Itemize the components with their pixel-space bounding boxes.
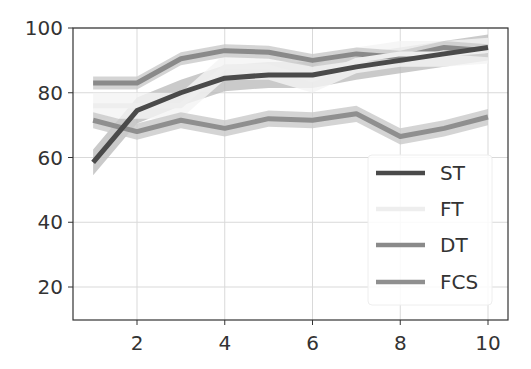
y-tick-label: 80 xyxy=(38,81,63,105)
legend-label-dt: DT xyxy=(440,233,468,257)
x-tick-label: 6 xyxy=(306,331,319,355)
line-chart: 20406080100 246810 ST FT DT FCS xyxy=(0,0,531,369)
x-tick-label: 4 xyxy=(218,331,231,355)
legend-label-fcs: FCS xyxy=(440,270,478,294)
legend-label-st: ST xyxy=(440,161,466,185)
legend-label-ft: FT xyxy=(440,197,464,221)
y-tick-label: 20 xyxy=(38,275,63,299)
y-tick-label: 60 xyxy=(38,146,63,170)
x-axis: 246810 xyxy=(131,320,501,355)
y-axis: 20406080100 xyxy=(25,16,73,299)
y-tick-label: 100 xyxy=(25,16,63,40)
x-tick-label: 10 xyxy=(475,331,500,355)
y-tick-label: 40 xyxy=(38,210,63,234)
x-tick-label: 2 xyxy=(131,331,144,355)
x-tick-label: 8 xyxy=(394,331,407,355)
legend: ST FT DT FCS xyxy=(368,155,492,305)
